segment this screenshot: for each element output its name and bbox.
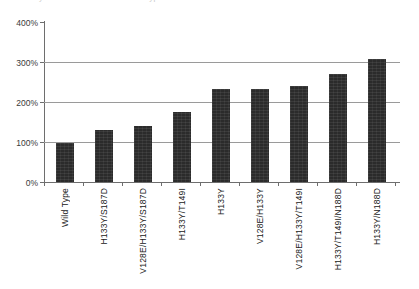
x-axis-tick-2 bbox=[122, 183, 123, 186]
x-axis-label-v128e-h133y-t149i: V128E/H133Y/T149I bbox=[294, 188, 304, 269]
x-axis-label-wild-type: Wild Type bbox=[60, 188, 70, 227]
bar-h133y-t149i-n188d bbox=[329, 74, 347, 183]
x-axis-label-h133y-n188d: H133Y/N188D bbox=[372, 188, 382, 245]
bar-v128e-h133y-s187d bbox=[134, 126, 152, 183]
y-axis-label-100: 100% bbox=[0, 138, 38, 148]
x-axis-tick-9 bbox=[395, 183, 396, 186]
y-axis-label-0: 0% bbox=[0, 178, 38, 188]
x-axis-tick-8 bbox=[356, 183, 357, 186]
x-axis-tick-1 bbox=[83, 183, 84, 186]
bar-v128e-h133y-t149i bbox=[290, 86, 308, 183]
x-axis-labels: Wild Type H133Y/S187D V128E/H133Y/S187D … bbox=[44, 188, 400, 288]
x-axis-tick-6 bbox=[278, 183, 279, 186]
bar-h133y-s187d bbox=[95, 130, 113, 183]
clipped-title-strip: stability of variants relative to wild t… bbox=[0, 0, 419, 8]
bar-h133y-n188d bbox=[368, 59, 386, 183]
y-axis-label-300: 300% bbox=[0, 58, 38, 68]
x-axis-line bbox=[44, 182, 400, 183]
x-axis-label-h133y: H133Y bbox=[216, 188, 226, 215]
x-axis-label-h133y-t149i: H133Y/T149I bbox=[177, 188, 187, 240]
x-axis-label-h133y-s187d: H133Y/S187D bbox=[99, 188, 109, 245]
y-axis-labels: 400% 300% 200% 100% 0% bbox=[0, 0, 38, 289]
bar-v128e-h133y bbox=[251, 89, 269, 183]
x-axis-tick-0 bbox=[44, 183, 45, 186]
bar-wild-type bbox=[56, 143, 74, 183]
bar-series bbox=[44, 22, 400, 183]
bar-h133y-t149i bbox=[173, 112, 191, 183]
bar-h133y bbox=[212, 89, 230, 183]
x-axis-label-v128e-h133y-s187d: V128E/H133Y/S187D bbox=[138, 188, 148, 274]
x-axis-label-v128e-h133y: V128E/H133Y bbox=[255, 188, 265, 244]
bar-chart: stability of variants relative to wild t… bbox=[0, 0, 419, 289]
x-axis-tick-5 bbox=[239, 183, 240, 186]
x-axis-tick-4 bbox=[200, 183, 201, 186]
x-axis-tick-3 bbox=[161, 183, 162, 186]
x-axis-label-h133y-t149i-n188d: H133Y/T149I/N188D bbox=[333, 188, 343, 270]
y-axis-label-400: 400% bbox=[0, 18, 38, 28]
y-axis-label-200: 200% bbox=[0, 98, 38, 108]
x-axis-tick-7 bbox=[317, 183, 318, 186]
